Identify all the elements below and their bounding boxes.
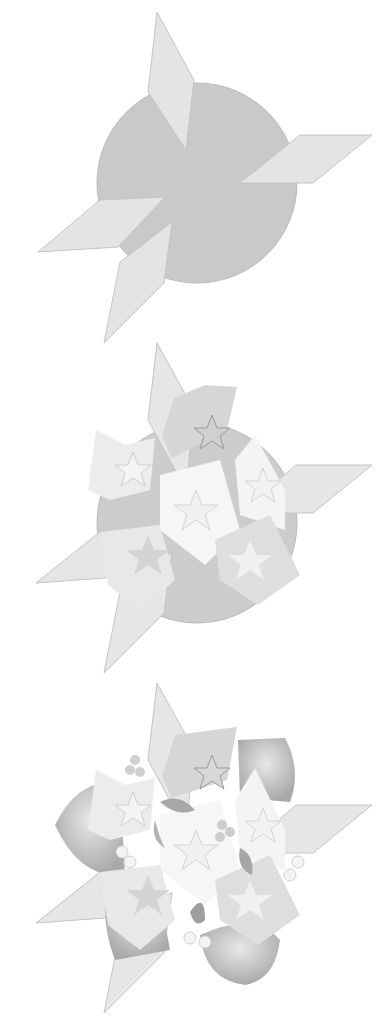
star-flower-left — [88, 430, 155, 500]
star-flower-left — [88, 770, 155, 840]
leaf — [190, 903, 205, 924]
leaf — [160, 798, 195, 812]
step-2-stars-illustration: stars-added — [0, 340, 388, 685]
small-blossom — [125, 755, 145, 777]
step-1-base-illustration: base — [0, 0, 388, 345]
step-3-finished-illustration: finished — [0, 680, 388, 1025]
